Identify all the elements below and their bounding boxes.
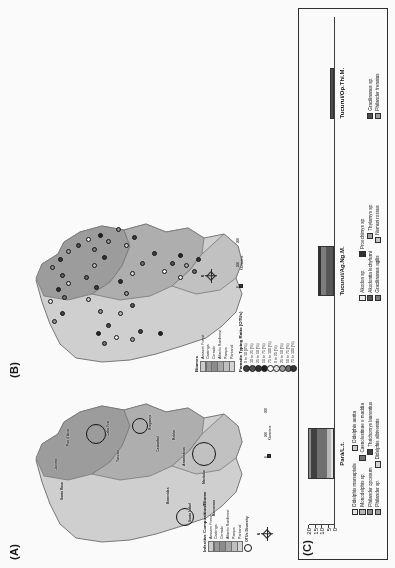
- sampling-point: [84, 275, 89, 280]
- biome-label: Cerrado: [220, 526, 225, 539]
- chart-legend-item: Gracilinanus agilis Nemuri rossus: [375, 204, 381, 301]
- city-label: Santa Izabel: [188, 503, 192, 522]
- biome-label: Caatinga: [206, 345, 211, 359]
- biome-label: Amazon Forest: [201, 335, 206, 359]
- ratio-item: 75 to 100 (%): [268, 312, 273, 372]
- scale-bar: 0 100 200 Kilometers: [264, 408, 272, 458]
- bar-segment: [331, 428, 334, 479]
- panel-b-map-canvas: Biomes Amazon Forest Caatinga Cerrado At…: [6, 204, 292, 380]
- legend-species-label: Caenolestinae e maddia: [360, 403, 365, 453]
- chart-legend-item: Philander opossum Thrichomys laurentius: [367, 402, 373, 515]
- panel-a-map: (A) Santa Rosa Jacinto Pau d'Arco Cabo F…: [6, 384, 292, 562]
- legend-species-label: Monodelphis sp.: [360, 473, 365, 506]
- scale-unit: Kilometers: [240, 238, 244, 288]
- sampling-point: [178, 253, 183, 258]
- ratio-item: 25 to 50 (%): [279, 312, 284, 372]
- city-label: Santa Rosa: [60, 482, 64, 500]
- legend-species-label: Philander opossum: [368, 467, 373, 506]
- legend-swatch: [375, 509, 381, 515]
- sampling-point: [130, 337, 135, 342]
- sampling-point: [124, 291, 129, 296]
- city-label: Marituba: [202, 470, 206, 484]
- legend-swatch: [352, 445, 358, 451]
- biome-label: Amazon Forest: [209, 515, 214, 539]
- scientific-figure: (A) Santa Rosa Jacinto Pau d'Arco Cabo F…: [0, 0, 395, 568]
- bar-segment: [333, 246, 334, 297]
- chart-legend-item: Philander sp. Didelphis albiventris: [375, 402, 381, 515]
- legend-swatch: [375, 461, 381, 467]
- sampling-point: [96, 331, 101, 336]
- sampling-point: [106, 323, 111, 328]
- sampling-point: [114, 335, 119, 340]
- compass-rose: N: [258, 526, 276, 542]
- bar-category-label: Tucuruí/Op.Thi.M.: [339, 68, 345, 119]
- legend-swatch: [359, 509, 365, 515]
- scale-seg: [269, 455, 270, 457]
- ratio-item: 10 to 25 (%): [250, 312, 255, 372]
- chart-legend-item: Didelphis marsupialis Didelphis aurita: [352, 402, 358, 515]
- legend-species-label: Thylamys sp.: [368, 204, 373, 231]
- legend-swatch: [367, 295, 373, 301]
- scale-seg: [241, 285, 242, 287]
- ratio-label: 0 to 10 (0%): [244, 343, 249, 363]
- diversity-ring: [132, 418, 148, 434]
- sampling-point: [102, 341, 107, 346]
- ratio-legend-title: Parasite Typing Ratio (OTUs): [238, 312, 243, 372]
- city-label: Cabo Frio: [106, 421, 110, 436]
- stacked-bar: [330, 68, 334, 119]
- sampling-point: [132, 235, 137, 240]
- sampling-point: [138, 329, 143, 334]
- sampling-point: [158, 331, 163, 336]
- sampling-point: [98, 309, 103, 314]
- compass-rose: N: [202, 268, 220, 284]
- sampling-point: [48, 299, 53, 304]
- sampling-point: [192, 269, 197, 274]
- sampling-point: [92, 263, 97, 268]
- y-axis: [309, 524, 335, 525]
- y-tick-label: 0: [332, 528, 338, 531]
- bar-segment: [317, 428, 327, 479]
- y-tick-label: 5: [326, 528, 332, 531]
- ratio-item: 25 to 50 (%): [256, 312, 261, 372]
- legend-item: Pantanal: [229, 312, 234, 372]
- compass-star: [206, 271, 216, 281]
- rotated-figure-wrapper: (A) Santa Rosa Jacinto Pau d'Arco Cabo F…: [0, 0, 395, 568]
- otu-diversity-icon: [244, 544, 252, 552]
- legend-species-label: Gracilinanus sp.: [368, 78, 373, 111]
- ratio-item: 75 to 100 (%): [291, 312, 296, 372]
- sampling-point: [98, 233, 103, 238]
- compass-star: [262, 529, 272, 539]
- chart-legend-item: Akodontia lechyfurni Thylamys sp.: [367, 204, 373, 301]
- legend-species-label: Akodontia lechyfurni: [368, 251, 373, 292]
- city-label: Belém: [172, 430, 176, 440]
- sampling-point: [58, 257, 63, 262]
- ratio-label: 50 to 75 (%): [262, 343, 267, 363]
- stacked-bar: [318, 246, 334, 297]
- biome-label: Atlantic Rainforest: [218, 330, 223, 359]
- city-label: Pau d'Arco: [66, 429, 70, 446]
- biome-swatch: [229, 361, 236, 372]
- city-label: Benevides: [166, 488, 170, 505]
- legend-title: Infective Composition/Biome: [202, 492, 207, 553]
- bar-category-label: Pará/L.t.: [339, 442, 345, 466]
- diversity-ring: [86, 424, 106, 444]
- biome-label: Pantanal: [238, 525, 243, 539]
- chart-legend-item: Gracilinanus sp.: [367, 73, 373, 119]
- sampling-point: [56, 287, 61, 292]
- sampling-point: [52, 319, 57, 324]
- panel-a-legend: Infective Composition/Biome Amazon Fores…: [202, 492, 251, 553]
- sampling-point: [86, 297, 91, 302]
- sampling-point: [118, 279, 123, 284]
- biome-label: Pampa: [224, 348, 229, 359]
- sampling-point: [130, 271, 135, 276]
- sampling-point: [152, 251, 157, 256]
- scale-tick: 200: [264, 408, 268, 413]
- legend-swatch: [375, 113, 381, 119]
- sampling-point: [124, 243, 129, 248]
- legend-swatch: [375, 295, 381, 301]
- legend-species-label: Philander sp.: [375, 480, 380, 507]
- legend-item: Pantanal: [237, 492, 242, 553]
- chart-plot-area: 0 5 10 15 20: [309, 17, 335, 525]
- sampling-point: [140, 261, 145, 266]
- chart-legend-group-1: Didelphis marsupialis Didelphis aurita M…: [352, 402, 381, 515]
